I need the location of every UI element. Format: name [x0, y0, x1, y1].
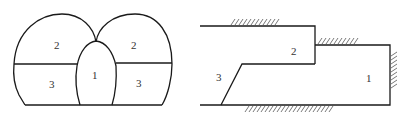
inner-bench-line [221, 64, 315, 105]
label-left-upper: 2 [54, 39, 60, 51]
label-left-lower: 3 [49, 78, 55, 90]
label-lower-bench: 3 [216, 71, 222, 83]
outer-boundary [200, 26, 315, 64]
label-center: 1 [92, 69, 98, 81]
label-upper-bench: 2 [291, 45, 297, 57]
label-right-lower: 3 [136, 77, 142, 89]
label-right-upper: 2 [131, 39, 137, 51]
label-front-core: 1 [366, 72, 372, 84]
hatch-right-wall [391, 52, 397, 88]
right-diagram: 2 3 1 [200, 19, 397, 112]
left-arch [14, 14, 96, 105]
hatch-step [318, 38, 358, 44]
right-arch [96, 14, 172, 105]
diagram-canvas: 2 3 1 2 3 [0, 0, 406, 124]
hatch-top [231, 19, 279, 25]
hatch-bottom [245, 106, 333, 112]
left-diagram: 2 3 1 2 3 [14, 14, 172, 105]
